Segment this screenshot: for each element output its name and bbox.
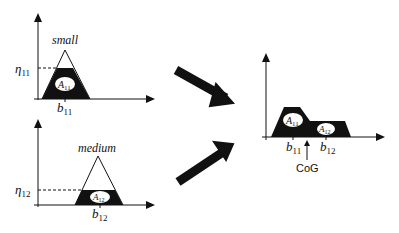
b12-label: b12	[92, 206, 108, 223]
y-axis-arrow-icon	[262, 53, 270, 62]
result-b11-label: b11	[286, 139, 301, 156]
eta-11-label: η11	[15, 61, 30, 78]
arrows	[176, 70, 233, 182]
y-axis-arrow-icon	[34, 119, 42, 128]
panel-small	[34, 13, 155, 103]
x-axis-arrow-icon	[146, 201, 155, 209]
aggregated-area	[271, 107, 351, 137]
cog-arrow-icon	[304, 140, 310, 146]
eta-12-label: η12	[15, 182, 30, 199]
label-medium: medium	[78, 141, 116, 155]
label-small: small	[52, 33, 79, 47]
cog-label: CoG	[296, 162, 319, 174]
x-axis-arrow-icon	[146, 95, 155, 103]
cog-diagram: small η11 A11 b11 medium η12 A12 b12 A11…	[0, 0, 399, 233]
y-axis-arrow-icon	[34, 13, 42, 22]
result-b12-label: b12	[320, 139, 336, 156]
x-axis-arrow-icon	[376, 133, 385, 141]
b11-label: b11	[57, 100, 72, 117]
arrow-up-right-shaft	[178, 150, 226, 182]
